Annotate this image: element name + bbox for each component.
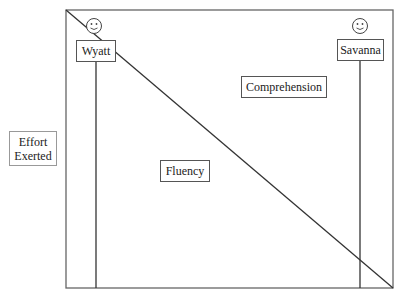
region-label-comprehension: Comprehension: [241, 76, 327, 98]
student-name: Wyatt: [82, 44, 111, 58]
region-label: Comprehension: [246, 80, 322, 94]
y-axis-label-line2: Exerted: [10, 149, 56, 163]
region-label-fluency: Fluency: [160, 160, 210, 182]
student-name: Savanna: [340, 43, 381, 57]
region-label: Fluency: [166, 164, 205, 178]
smiley-face-icon: [87, 19, 102, 34]
y-axis-label-line1: Effort: [10, 135, 56, 149]
smiley-face-icon: [353, 19, 368, 34]
student-label-wyatt: Wyatt: [76, 40, 116, 62]
student-label-savanna: Savanna: [337, 39, 384, 61]
y-axis-label: Effort Exerted: [9, 131, 57, 166]
